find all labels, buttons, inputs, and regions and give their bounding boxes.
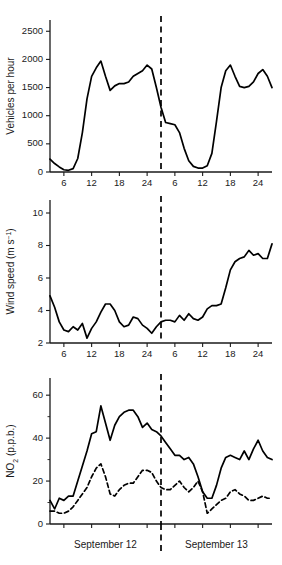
x-tick-label-wind: 6: [61, 348, 66, 359]
x-tick-label-traffic: 18: [225, 177, 236, 188]
y-tick-label-traffic: 1000: [22, 109, 43, 120]
y-tick-label-no2: 60: [32, 389, 43, 400]
x-tick-label-traffic: 6: [61, 177, 66, 188]
y-tick-label-wind: 2: [38, 337, 43, 348]
x-tick-label-traffic: 18: [114, 177, 125, 188]
y-tick-label-wind: 6: [38, 272, 43, 283]
x-tick-label-traffic: 12: [197, 177, 208, 188]
x-tick-label-wind: 24: [142, 348, 153, 359]
three-panel-timeseries-chart: 0500100015002000250061218246121824246810…: [0, 0, 282, 565]
y-axis-title-wind: Wind speed (m s−1): [5, 228, 17, 314]
y-tick-label-traffic: 500: [27, 137, 43, 148]
x-tick-label-traffic: 12: [86, 177, 97, 188]
y-tick-label-traffic: 2500: [22, 25, 43, 36]
y-axis-title-traffic: Vehicles per hour: [5, 57, 16, 135]
y-tick-label-traffic: 0: [38, 166, 43, 177]
x-tick-label-wind: 12: [86, 348, 97, 359]
panel-wind: 24681061218246121824: [32, 196, 272, 359]
day-label-1: September 12: [74, 539, 137, 550]
y-tick-label-wind: 4: [38, 304, 43, 315]
y-tick-label-no2: 0: [38, 518, 43, 529]
y-axis-title-no2: NO2 (p.p.b.): [5, 424, 19, 477]
x-tick-label-traffic: 24: [253, 177, 264, 188]
x-tick-label-traffic: 6: [172, 177, 177, 188]
y-tick-label-no2: 40: [32, 432, 43, 443]
y-tick-label-wind: 10: [32, 207, 43, 218]
y-tick-label-traffic: 1500: [22, 81, 43, 92]
x-tick-label-wind: 12: [197, 348, 208, 359]
panel-traffic: 0500100015002000250061218246121824: [22, 16, 272, 188]
x-tick-label-traffic: 24: [142, 177, 153, 188]
y-tick-label-wind: 8: [38, 239, 43, 250]
y-tick-label-no2: 20: [32, 475, 43, 486]
panel-no2: 0204060: [32, 374, 272, 529]
figure-container: 0500100015002000250061218246121824246810…: [0, 0, 282, 565]
y-tick-label-traffic: 2000: [22, 53, 43, 64]
x-tick-label-wind: 18: [114, 348, 125, 359]
x-tick-label-wind: 18: [225, 348, 236, 359]
day-label-2: September 13: [185, 539, 248, 550]
x-tick-label-wind: 24: [253, 348, 264, 359]
x-tick-label-wind: 6: [172, 348, 177, 359]
